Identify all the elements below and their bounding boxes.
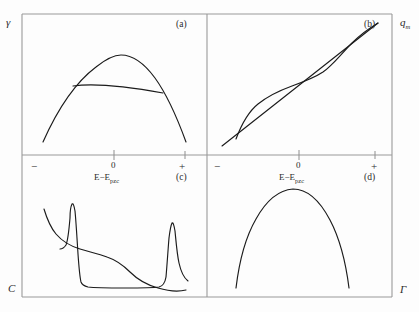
panel-c bbox=[44, 204, 188, 291]
panel-d-surface-excess-dome bbox=[236, 189, 349, 288]
x-axis-zero-label-right: 0 bbox=[296, 160, 301, 170]
x-axis-negative-sign-left: − bbox=[31, 160, 37, 172]
panel-a bbox=[43, 55, 186, 142]
panel-a-y-axis-label: γ bbox=[6, 16, 11, 28]
x-axis-negative-sign-right: − bbox=[214, 160, 220, 172]
panel-a-tag: (a) bbox=[176, 19, 187, 30]
panel-c-y-axis-label: C bbox=[8, 282, 16, 294]
x-axis-label-right: E−Epzc bbox=[279, 172, 304, 184]
panel-a-electrocapillary-parabola bbox=[43, 55, 186, 142]
panel-c-double-peak-curve bbox=[60, 204, 188, 288]
electrocapillarity-figure: γ (a) qm (b) − 0 + E−Epzc − 0 + E−Epzc bbox=[0, 0, 419, 312]
panel-c-tag: (c) bbox=[176, 172, 187, 183]
x-axis-annotations-right: − 0 + E−Epzc bbox=[214, 160, 377, 184]
panel-d-y-axis-label: Γ bbox=[399, 283, 407, 295]
panel-c-smooth-decay-curve bbox=[44, 209, 186, 291]
x-axis-annotations-left: − 0 + E−Epzc bbox=[31, 160, 185, 184]
panel-d-tag: (d) bbox=[364, 172, 375, 183]
panel-b-tag: (b) bbox=[364, 19, 375, 30]
x-axis-label-left: E−Epzc bbox=[94, 172, 119, 184]
panel-b bbox=[222, 23, 378, 146]
x-axis-zero-label-left: 0 bbox=[111, 160, 116, 170]
x-axis-positive-sign-left: + bbox=[179, 160, 185, 172]
panel-b-straight-line bbox=[222, 23, 378, 146]
figure-canvas: γ (a) qm (b) − 0 + E−Epzc − 0 + E−Epzc bbox=[0, 0, 419, 312]
x-axis-positive-sign-right: + bbox=[371, 160, 377, 172]
panel-b-y-axis-label: qm bbox=[400, 16, 411, 30]
panel-d bbox=[236, 189, 349, 288]
panel-a-tangent-chord bbox=[73, 85, 163, 93]
